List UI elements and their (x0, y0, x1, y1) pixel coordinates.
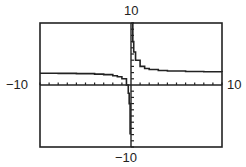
curve-right-branch (132, 23, 222, 72)
xmin-label: −10 (6, 78, 28, 91)
ymin-label: −10 (115, 151, 137, 164)
plot-area (0, 0, 246, 167)
curve-left-branch (40, 73, 130, 134)
xmax-label: 10 (227, 78, 241, 91)
ymax-label: 10 (124, 4, 138, 17)
